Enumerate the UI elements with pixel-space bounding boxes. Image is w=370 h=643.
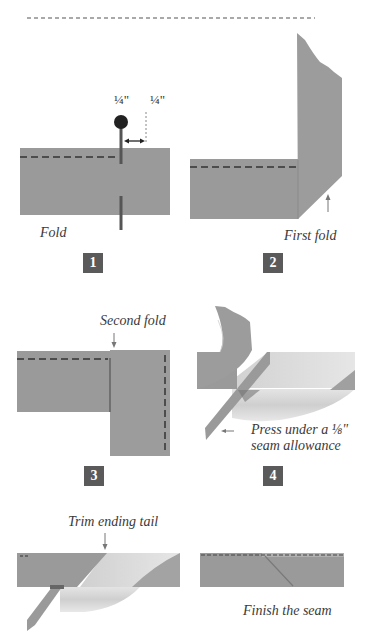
caption-first-fold: First fold (284, 228, 337, 244)
caption-finish-seam: Finish the seam (243, 603, 332, 619)
step-badge-3: 3 (84, 466, 104, 486)
fabric-strip (20, 148, 170, 215)
panel-1 (20, 112, 170, 230)
caption-fold: Fold (40, 225, 66, 241)
fabric-strip (200, 553, 344, 587)
step-badge-1: 1 (83, 253, 103, 273)
caption-second-fold: Second fold (100, 313, 166, 329)
caption-press-line2: seam allowance (251, 438, 341, 454)
caption-trim-ending-tail: Trim ending tail (68, 514, 158, 530)
binding-diagram (0, 0, 370, 643)
panel-3 (17, 333, 170, 456)
panel-4 (197, 306, 355, 440)
panel-5 (17, 533, 180, 631)
fabric-strip-horizontal (190, 159, 298, 219)
step-badge-4: 4 (263, 466, 283, 486)
fabric-strip-horizontal (17, 351, 111, 412)
panel-6 (200, 553, 344, 587)
panel-2 (190, 33, 342, 219)
diagonal-tail (27, 587, 62, 631)
pin-head-icon (114, 115, 128, 129)
caption-press-line1: Press under a ⅛" (251, 422, 348, 438)
light-fabric-curve (60, 587, 140, 612)
fabric-strip-vertical (110, 350, 170, 456)
measure-label-right: ¼" (150, 92, 165, 108)
measure-label-left: ¼" (114, 92, 129, 108)
fabric-strip-vertical (297, 33, 342, 219)
step-badge-2: 2 (263, 253, 283, 273)
